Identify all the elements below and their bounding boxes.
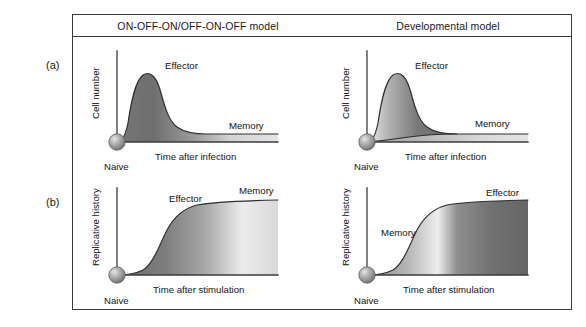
y-axis-label: Cell number <box>90 66 101 119</box>
memory-label: Memory <box>381 227 416 238</box>
x-axis-label: Time after infection <box>405 151 486 162</box>
y-axis-label: Cell number <box>340 66 351 119</box>
naive-cell-sphere <box>109 134 125 150</box>
column-header-band: ON-OFF-ON/OFF-ON-OFF model Developmental… <box>73 15 571 37</box>
effector-label: Effector <box>165 60 199 71</box>
x-axis-label: Time after stimulation <box>403 284 494 295</box>
x-axis-label: Time after infection <box>155 151 236 162</box>
naive-cell-sphere <box>109 267 125 283</box>
column-header-on-off-model: ON-OFF-ON/OFF-ON-OFF model <box>73 15 323 37</box>
effector-label: Effector <box>169 193 203 204</box>
memory-label: Memory <box>229 120 264 131</box>
curve-fill-area <box>117 200 278 275</box>
figure-outer-frame: ON-OFF-ON/OFF-ON-OFF model Developmental… <box>72 14 572 310</box>
column-header-developmental-model: Developmental model <box>323 15 573 37</box>
naive-label: Naive <box>104 295 129 306</box>
effector-label: Effector <box>486 187 520 198</box>
row-tag-a: (a) <box>46 59 59 71</box>
y-axis-label: Replicative history <box>90 188 101 266</box>
panel-b-left: Replicative history Time after stimulati… <box>73 174 323 311</box>
panel-b-right: Replicative history Time after stimulati… <box>323 174 573 311</box>
memory-label: Memory <box>475 118 510 129</box>
panel-a-left: Cell number Time after infection Naive E… <box>73 37 323 174</box>
curve-fill-area <box>117 74 278 142</box>
naive-label: Naive <box>104 161 129 172</box>
naive-cell-sphere <box>359 134 375 150</box>
figure-root: (a) (b) ON-OFF-ON/OFF-ON-OFF model Devel… <box>0 0 586 327</box>
naive-label: Naive <box>354 161 379 172</box>
naive-label: Naive <box>354 295 379 306</box>
memory-label: Memory <box>239 185 274 196</box>
row-tag-b: (b) <box>46 196 59 208</box>
effector-label: Effector <box>415 60 449 71</box>
panel-a-right: Cell number Time after infection Naive E… <box>323 37 573 174</box>
naive-cell-sphere <box>359 267 375 283</box>
x-axis-label: Time after stimulation <box>153 284 244 295</box>
y-axis-label: Replicative history <box>340 188 351 266</box>
